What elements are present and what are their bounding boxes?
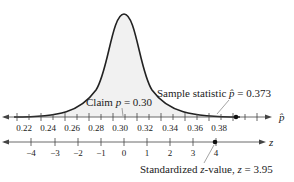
claim-annotation: Claim p = 0.30 [86,96,153,108]
sample-statistic-annotation: Sample statistic p̂ = 0.373 [157,87,272,99]
z-axis: z [2,136,274,148]
svg-text:0.28: 0.28 [88,123,104,133]
svg-text:−4: −4 [26,148,36,158]
phat-axis-label: p̂ [278,111,285,123]
svg-text:0.38: 0.38 [211,123,227,133]
svg-text:1: 1 [145,148,150,158]
z-value-annotation: Standardized z-value, z = 3.95 [140,163,273,175]
svg-text:0: 0 [122,148,127,158]
svg-text:4: 4 [214,148,219,158]
z-axis-label: z [268,136,274,148]
z-value-point [213,140,218,145]
z-leader-line [204,145,214,163]
phat-tick-labels: 0.22 0.24 0.26 0.28 0.30 0.32 0.34 0.36 … [16,123,227,133]
svg-text:0.36: 0.36 [187,123,203,133]
hypothesis-test-figure: p̂ 0.22 0.24 0.26 0.28 0.30 0.32 0.34 0.… [0,0,294,182]
sample-statistic-point [234,115,239,120]
z-tick-labels: −4 −3 −2 −1 0 1 2 3 4 [26,148,219,158]
sample-leader-line [217,100,229,114]
svg-text:0.34: 0.34 [162,123,178,133]
svg-text:3: 3 [191,148,196,158]
svg-text:2: 2 [168,148,173,158]
svg-text:0.30: 0.30 [112,123,128,133]
svg-text:0.26: 0.26 [64,123,80,133]
svg-text:0.24: 0.24 [40,123,56,133]
svg-text:−3: −3 [50,148,60,158]
svg-text:0.32: 0.32 [137,123,153,133]
svg-text:−2: −2 [73,148,83,158]
svg-text:0.22: 0.22 [16,123,32,133]
svg-text:−1: −1 [96,148,106,158]
